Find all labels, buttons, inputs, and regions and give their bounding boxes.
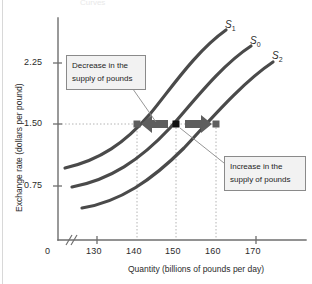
x-tick-label-130: 130 bbox=[86, 246, 102, 256]
y-axis-title: Exchange rate (dollars per pound) bbox=[14, 83, 24, 212]
callout-increase-supply: Increase in the supply of pounds bbox=[224, 156, 306, 191]
callout-decrease-line2: supply of pounds bbox=[72, 72, 140, 85]
curve-label-s1-sub: 1 bbox=[232, 25, 236, 32]
supply-of-pounds-chart: Curves bbox=[0, 0, 312, 284]
marker-160 bbox=[213, 121, 220, 128]
y-tick-label-150: 1.50 bbox=[24, 118, 42, 128]
curve-label-s0: S0 bbox=[250, 35, 261, 48]
callout-decrease-line1: Decrease in the bbox=[72, 59, 140, 72]
curve-label-s2-text: S bbox=[272, 50, 279, 61]
curve-label-s0-text: S bbox=[250, 35, 257, 46]
callout-decrease-supply: Decrease in the supply of pounds bbox=[66, 55, 146, 90]
callout-increase-line2: supply of pounds bbox=[230, 173, 300, 186]
x-tick-label-140: 140 bbox=[126, 246, 142, 256]
marker-140 bbox=[134, 121, 141, 128]
x-tick-label-170: 170 bbox=[245, 246, 261, 256]
marker-150 bbox=[173, 121, 180, 128]
curve-label-s2: S2 bbox=[272, 50, 283, 63]
callout-increase-line1: Increase in the bbox=[230, 160, 300, 173]
curve-label-s2-sub: 2 bbox=[279, 56, 283, 63]
y-tick-label-075: 0.75 bbox=[24, 180, 42, 190]
curve-label-s0-sub: 0 bbox=[257, 41, 261, 48]
x-origin-label: 0 bbox=[45, 246, 50, 256]
curve-label-s1: S1 bbox=[225, 19, 236, 32]
chart-canvas bbox=[0, 0, 312, 284]
y-tick-label-225: 2.25 bbox=[24, 57, 42, 67]
x-axis-title: Quantity (billions of pounds per day) bbox=[128, 264, 264, 274]
curve-label-s1-text: S bbox=[225, 19, 232, 30]
x-tick-label-150: 150 bbox=[165, 246, 181, 256]
x-tick-label-160: 160 bbox=[205, 246, 221, 256]
curve-s1 bbox=[65, 30, 226, 168]
